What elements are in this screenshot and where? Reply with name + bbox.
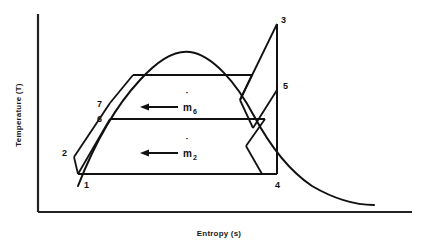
process-2-7 — [74, 103, 110, 174]
axes-group — [38, 14, 412, 212]
mdot-lower-symbol: m — [183, 148, 192, 159]
superheat-upper-join — [240, 75, 252, 100]
state-point-label-5: 5 — [283, 81, 288, 91]
diagram-canvas: ˙ m 6 ˙ m 2 1 2 3 4 5 6 7 Entropy (s) Te… — [0, 0, 433, 250]
mdot-upper-symbol: m — [183, 102, 192, 113]
mdot-upper-subscript: 6 — [193, 108, 197, 115]
state-point-label-3: 3 — [281, 15, 286, 25]
process-superheat — [240, 24, 277, 128]
state-point-label-6: 6 — [97, 114, 102, 124]
mdot-lower-subscript: 2 — [193, 154, 197, 161]
mdot-upper-dot: ˙ — [185, 91, 188, 102]
line-to-point-5 — [253, 90, 277, 128]
ts-diagram-figure: ˙ m 6 ˙ m 2 1 2 3 4 5 6 7 Entropy (s) Te… — [0, 0, 433, 250]
flow-arrow-upper-group — [140, 104, 178, 111]
flow-label-upper: ˙ m 6 — [183, 91, 197, 115]
boiler-inlet-line — [110, 75, 133, 103]
state-point-label-1: 1 — [84, 180, 89, 190]
state-point-label-7: 7 — [97, 99, 102, 109]
flow-arrow-lower-group — [140, 150, 178, 157]
process-5 — [246, 90, 277, 174]
flow-arrow-upper-head — [140, 104, 149, 111]
pump-line-1-2 — [74, 157, 78, 174]
state-point-label-2: 2 — [62, 148, 67, 158]
flow-label-lower: ˙ m 2 — [183, 137, 197, 161]
mdot-lower-dot: ˙ — [185, 137, 188, 148]
y-axis-title: Temperature (T) — [14, 83, 23, 146]
x-axis-title: Entropy (s) — [197, 229, 242, 238]
process-1-2 — [74, 157, 78, 174]
state-point-label-4: 4 — [275, 180, 280, 190]
line-to-point-4 — [246, 146, 262, 174]
process-7-boiler — [110, 75, 133, 103]
flow-arrow-lower-head — [140, 150, 149, 157]
